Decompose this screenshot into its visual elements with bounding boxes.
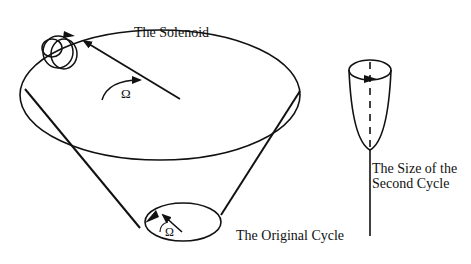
second-cycle-label-line1: The Size of the xyxy=(372,161,471,176)
second-cycle-label: The Size of the Second Cycle xyxy=(372,161,471,191)
original-cycle-label: The Original Cycle xyxy=(236,228,344,243)
solenoid-diagram xyxy=(0,0,471,264)
solenoid-arrowhead xyxy=(63,31,75,38)
radial-arrow xyxy=(84,41,180,99)
cone-line-right xyxy=(221,91,300,215)
original-cycle-ellipse xyxy=(145,203,221,241)
omega-label-large: Ω xyxy=(121,87,131,101)
second-cycle-label-line2: Second Cycle xyxy=(372,176,471,191)
solenoid-label: The Solenoid xyxy=(134,25,209,40)
omega-label-small: Ω xyxy=(165,226,174,239)
solenoid-coil-icon xyxy=(42,36,77,69)
